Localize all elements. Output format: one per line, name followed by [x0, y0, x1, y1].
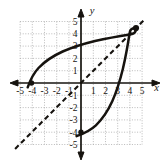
y-tick-label: 4: [73, 29, 78, 39]
y-tick-label: -4: [70, 128, 78, 138]
y-tick-label: 2: [73, 54, 78, 64]
x-tick-label: 2: [103, 86, 108, 96]
x-tick-label: 3: [115, 86, 120, 96]
x-tick-label: -5: [16, 86, 24, 96]
inverse-endpoint-marker: [29, 80, 34, 85]
x-tick-label: -2: [53, 86, 61, 96]
y-axis-arrow-down: [78, 152, 84, 160]
y-tick-label: 3: [73, 41, 78, 51]
y-tick-label: -5: [70, 140, 78, 150]
y-tick-label: 5: [73, 17, 78, 27]
x-axis-label: x: [153, 82, 159, 93]
x-tick-label: -3: [41, 86, 49, 96]
y-axis-label: y: [89, 5, 95, 16]
x-tick-label: 5: [140, 86, 145, 96]
reflection-line-y-equals-x: [15, 21, 143, 149]
intersection-point-marker: [133, 25, 139, 31]
coordinate-plane-graph: -5 -4 -3 -2 -1 1 2 3 4 5 5 4 3 2 1 -1 -2…: [0, 0, 166, 161]
x-tick-label: 4: [128, 86, 133, 96]
y-tick-label: 1: [73, 66, 78, 76]
y-tick-label: -3: [70, 115, 78, 125]
x-axis-arrow-left: [10, 80, 18, 86]
x-tick-label: -4: [28, 86, 36, 96]
graph-figure: -5 -4 -3 -2 -1 1 2 3 4 5 5 4 3 2 1 -1 -2…: [0, 0, 166, 161]
y-axis-arrow-up: [78, 9, 84, 17]
x-tick-label: 1: [91, 86, 96, 96]
y-tick-label: -2: [70, 103, 78, 113]
function-endpoint-marker: [78, 130, 83, 135]
y-tick-label: -1: [70, 91, 78, 101]
